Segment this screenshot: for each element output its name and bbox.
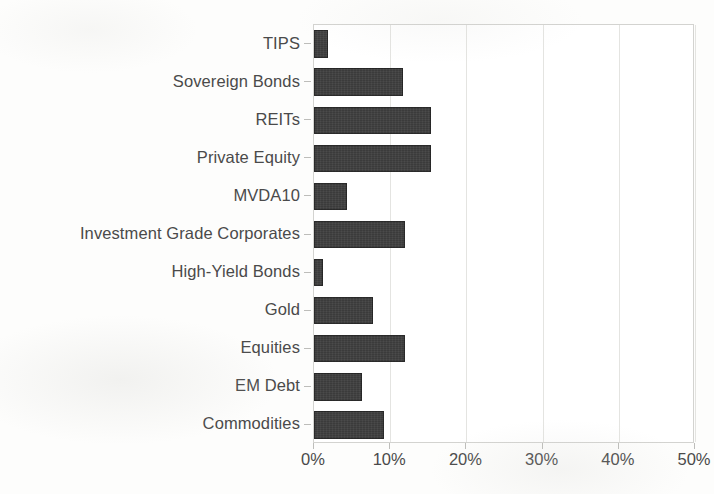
bar-row [314, 259, 693, 286]
x-axis-tick-label: 30% [525, 451, 558, 468]
y-axis-tick-mark [304, 195, 311, 196]
bar-chart-figure: TIPSSovereign BondsREITsPrivate EquityMV… [0, 0, 714, 494]
y-axis-tick-mark [304, 424, 311, 425]
bar-row [314, 373, 693, 400]
y-axis-tick-mark [304, 272, 311, 273]
x-axis-tick-mark [694, 443, 695, 449]
y-axis-tick-label: REITs [255, 111, 300, 128]
y-axis-tick-label: EM Debt [235, 377, 300, 394]
bar-row [314, 335, 693, 362]
bar [314, 107, 431, 134]
x-axis-tick-label: 50% [677, 451, 710, 468]
y-axis-tick-mark [304, 386, 311, 387]
bar-row [314, 107, 693, 134]
x-axis-tick-label: 10% [373, 451, 406, 468]
bar [314, 373, 362, 400]
y-axis-tick-label: TIPS [263, 35, 300, 52]
y-axis-tick-label: High-Yield Bonds [172, 263, 300, 280]
y-axis-tick-label: MVDA10 [233, 187, 300, 204]
bar-row [314, 297, 693, 324]
bar [314, 335, 405, 362]
y-axis-category-labels: TIPSSovereign BondsREITsPrivate EquityMV… [0, 24, 300, 443]
x-axis-value-labels: 0%10%20%30%40%50% [313, 451, 694, 479]
y-axis-tick-mark [304, 234, 311, 235]
y-axis-tick-label: Commodities [203, 415, 300, 432]
y-axis-tick-mark [304, 81, 311, 82]
bar-row [314, 183, 693, 210]
bar [314, 411, 384, 438]
bar [314, 259, 323, 286]
bar-row [314, 30, 693, 57]
y-axis-tick-mark [304, 310, 311, 311]
bar [314, 145, 431, 172]
bar-row [314, 68, 693, 95]
y-axis-tick-label: Sovereign Bonds [173, 73, 300, 90]
y-axis-tick-label: Equities [240, 339, 300, 356]
bar-row [314, 145, 693, 172]
x-axis-tick-mark [313, 443, 314, 449]
bar-row [314, 411, 693, 438]
y-axis-tick-label: Investment Grade Corporates [80, 225, 300, 242]
x-axis-tick-label: 20% [449, 451, 482, 468]
bar [314, 297, 373, 324]
y-axis-tick-mark [304, 348, 311, 349]
y-axis-tick-label: Private Equity [197, 149, 300, 166]
gridline-vertical [695, 25, 696, 442]
x-axis-tick-mark [542, 443, 543, 449]
x-axis-tick-mark [389, 443, 390, 449]
plot-area [313, 24, 694, 443]
bar [314, 30, 328, 57]
bar [314, 68, 403, 95]
y-axis-tick-label: Gold [265, 301, 300, 318]
y-axis-tick-mark [304, 157, 311, 158]
bar-row [314, 221, 693, 248]
bar [314, 221, 405, 248]
x-axis-tick-mark [465, 443, 466, 449]
x-axis-tick-label: 40% [601, 451, 634, 468]
bar [314, 183, 347, 210]
x-axis-tick-label: 0% [301, 451, 325, 468]
y-axis-tick-mark [304, 119, 311, 120]
y-axis-tick-mark [304, 43, 311, 44]
x-axis-tick-mark [618, 443, 619, 449]
